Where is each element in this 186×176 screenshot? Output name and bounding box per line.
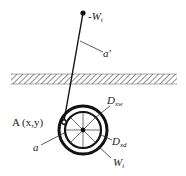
wheel xyxy=(59,106,107,154)
top-weight-label: -Wt xyxy=(88,10,104,24)
top-weight-dot xyxy=(80,10,85,15)
ground-surface xyxy=(11,74,177,84)
outer-diameter-label: Dxw xyxy=(106,94,123,108)
wheel-hub-dot xyxy=(81,128,86,133)
wheel-weight-label: Wt xyxy=(113,156,125,170)
anchor-point-marker xyxy=(62,120,66,124)
diagram-canvas: -Wt a' A (x,y) a Dxw Dxd Wt xyxy=(0,0,186,176)
angle-a-label: a xyxy=(33,141,39,153)
anchor-point-label: A (x,y) xyxy=(12,116,44,129)
wheel-weight-leader xyxy=(98,146,111,158)
cable-angle-label: a' xyxy=(103,47,112,59)
cable-angle-leader xyxy=(80,41,103,52)
inner-diameter-label: Dxd xyxy=(111,135,127,149)
